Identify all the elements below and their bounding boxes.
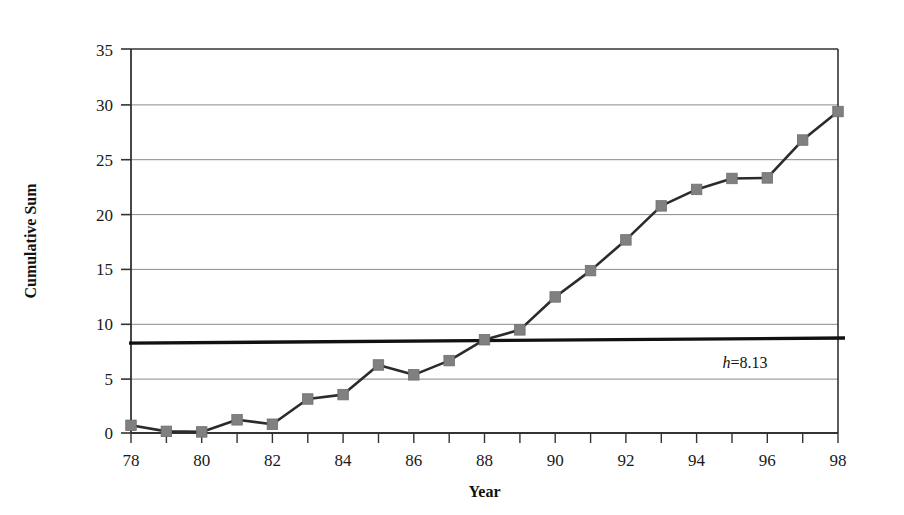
data-point-marker bbox=[444, 355, 455, 366]
ytick-label-35: 35 bbox=[96, 41, 113, 60]
xtick-label-82: 82 bbox=[264, 451, 281, 470]
data-point-marker bbox=[621, 235, 632, 246]
xtick-label-88: 88 bbox=[476, 451, 493, 470]
ytick-label-5: 5 bbox=[105, 370, 114, 389]
threshold-label-value: =8.13 bbox=[730, 354, 767, 371]
data-point-marker bbox=[585, 265, 596, 276]
x-axis-ticks bbox=[131, 433, 838, 443]
xtick-label-90: 90 bbox=[547, 451, 564, 470]
cumulative-sum-line-chart: 0 5 10 15 20 25 30 35 bbox=[0, 0, 904, 515]
data-point-marker bbox=[232, 415, 243, 426]
data-point-marker bbox=[373, 360, 384, 371]
xtick-label-92: 92 bbox=[617, 451, 634, 470]
data-point-marker bbox=[691, 184, 702, 195]
data-point-marker bbox=[762, 173, 773, 184]
data-point-marker bbox=[550, 292, 561, 303]
chart-figure: 0 5 10 15 20 25 30 35 bbox=[0, 0, 904, 515]
xtick-label-94: 94 bbox=[688, 451, 706, 470]
data-point-marker bbox=[267, 419, 278, 430]
data-point-marker bbox=[196, 427, 207, 438]
x-axis-title: Year bbox=[469, 483, 501, 500]
y-axis-title: Cumulative Sum bbox=[22, 183, 39, 299]
xtick-label-80: 80 bbox=[193, 451, 210, 470]
ytick-label-25: 25 bbox=[96, 151, 113, 170]
data-point-marker bbox=[727, 173, 738, 184]
ytick-label-20: 20 bbox=[96, 206, 113, 225]
data-point-marker bbox=[479, 334, 490, 345]
ytick-label-15: 15 bbox=[96, 260, 113, 279]
xtick-label-84: 84 bbox=[335, 451, 353, 470]
data-point-marker bbox=[338, 389, 349, 400]
xtick-label-78: 78 bbox=[123, 451, 140, 470]
ytick-label-30: 30 bbox=[96, 96, 113, 115]
plot-area-background bbox=[131, 49, 838, 433]
data-point-marker bbox=[656, 201, 667, 212]
xtick-label-96: 96 bbox=[759, 451, 776, 470]
data-point-marker bbox=[515, 325, 526, 336]
data-point-marker bbox=[797, 135, 808, 146]
y-axis-ticks bbox=[121, 49, 131, 433]
data-point-marker bbox=[303, 394, 314, 405]
x-axis-tick-labels: 78 80 82 84 86 88 90 92 94 96 98 bbox=[123, 451, 847, 470]
ytick-label-0: 0 bbox=[105, 424, 114, 443]
data-point-marker bbox=[409, 370, 420, 381]
xtick-label-86: 86 bbox=[405, 451, 422, 470]
data-point-marker bbox=[161, 426, 172, 437]
y-axis-tick-labels: 0 5 10 15 20 25 30 35 bbox=[96, 41, 113, 443]
ytick-label-10: 10 bbox=[96, 315, 113, 334]
data-point-marker bbox=[126, 420, 137, 431]
threshold-label-symbol: h bbox=[722, 354, 730, 371]
data-point-marker bbox=[833, 106, 844, 117]
xtick-label-98: 98 bbox=[830, 451, 847, 470]
threshold-label: h=8.13 bbox=[722, 354, 767, 371]
